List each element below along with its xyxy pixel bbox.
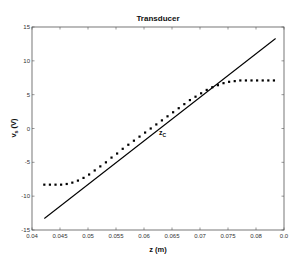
data-point	[206, 89, 208, 91]
annotation-layer: zC	[159, 129, 167, 138]
axes-box	[32, 27, 284, 230]
y-tick-label: -5	[25, 159, 31, 165]
data-point	[94, 169, 96, 171]
data-point	[273, 79, 275, 81]
data-point	[138, 136, 140, 138]
data-point	[54, 184, 56, 186]
x-tick-label: 0.06	[138, 233, 150, 239]
data-point	[256, 79, 258, 81]
chart-title: Transducer	[136, 14, 179, 23]
data-point	[60, 184, 62, 186]
data-point	[77, 180, 79, 182]
x-tick-label: 0.055	[108, 233, 124, 239]
data-point	[133, 140, 135, 142]
y-axis-label-unit: (V)	[9, 118, 18, 129]
y-axis-ticks: -15-10-5051015	[21, 24, 284, 233]
chart-canvas: Transducer 0.040.0450.050.0550.060.0650.…	[0, 0, 302, 259]
y-tick-label: 0	[27, 126, 31, 132]
data-point	[166, 115, 168, 117]
plot-area: 0.040.0450.050.0550.060.0650.070.0750.08…	[21, 24, 289, 239]
data-point	[43, 184, 45, 186]
x-tick-label: 0.075	[220, 233, 236, 239]
y-tick-label: 5	[27, 92, 31, 98]
data-point	[172, 111, 174, 113]
y-tick-label: 15	[23, 24, 30, 30]
data-point	[155, 123, 157, 125]
x-tick-label: 0.04	[26, 233, 38, 239]
data-point	[105, 161, 107, 163]
x-tick-label: 0.07	[194, 233, 206, 239]
y-tick-label: -10	[21, 193, 30, 199]
data-point	[49, 184, 51, 186]
svg-text:vs(V): vs(V)	[9, 118, 19, 138]
data-point	[200, 92, 202, 94]
data-point	[222, 82, 224, 84]
data-point	[178, 107, 180, 109]
data-point	[161, 119, 163, 121]
annotation-zc: zC	[159, 129, 167, 138]
data-point	[245, 79, 247, 81]
data-point	[183, 103, 185, 105]
data-point	[127, 144, 129, 146]
data-point	[150, 127, 152, 129]
data-point	[194, 96, 196, 98]
data-point	[262, 79, 264, 81]
data-point	[71, 182, 73, 184]
data-point	[116, 152, 118, 154]
data-point	[82, 177, 84, 179]
data-point	[250, 79, 252, 81]
x-tick-label: 0.045	[52, 233, 68, 239]
data-point	[189, 99, 191, 101]
data-point	[110, 156, 112, 158]
data-point	[267, 79, 269, 81]
data-point	[122, 148, 124, 150]
y-tick-label: 10	[23, 58, 30, 64]
x-axis-label: z (m)	[149, 245, 167, 254]
data-point	[217, 84, 219, 86]
data-point	[144, 131, 146, 133]
y-axis-label: vs(V)	[9, 118, 19, 138]
data-point	[99, 165, 101, 167]
data-point	[228, 81, 230, 83]
data-point	[234, 80, 236, 82]
y-tick-label: -15	[21, 227, 30, 233]
x-tick-label: 0.08	[250, 233, 262, 239]
data-point	[66, 183, 68, 185]
x-tick-label: 0.0	[280, 233, 289, 239]
data-point	[211, 86, 213, 88]
x-tick-label: 0.065	[164, 233, 180, 239]
x-tick-label: 0.05	[82, 233, 94, 239]
data-point	[239, 79, 241, 81]
data-point	[88, 173, 90, 175]
y-axis-label-sub: s	[13, 130, 19, 133]
